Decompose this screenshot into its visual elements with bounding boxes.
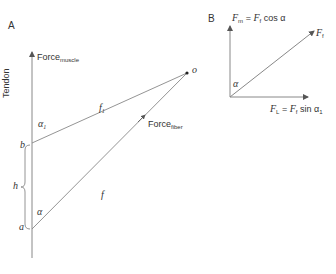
diagram-lines	[0, 0, 336, 274]
fm-rhs-sub: f	[260, 18, 262, 24]
force-fiber-sub: fiber	[171, 124, 183, 130]
alpha1-label: α1	[38, 119, 46, 130]
fm-equation: Fm = Ff cos α	[232, 13, 285, 24]
fl-fn-sub: 1	[319, 109, 322, 115]
alpha-label: α	[37, 207, 42, 217]
panel-b-label: B	[208, 14, 215, 24]
f-label: f	[101, 190, 104, 200]
ft-label: Ff	[316, 28, 324, 39]
force-fiber-arrow	[138, 115, 145, 122]
fl-fn: sin α	[300, 104, 319, 114]
panel-a-label: A	[8, 21, 15, 31]
fm-fn: cos α	[264, 13, 286, 23]
force-muscle-label: Forcemuscle	[37, 53, 79, 63]
fm-lhs-sub: m	[238, 18, 243, 24]
force-fiber-label: Forcefiber	[148, 120, 183, 130]
force-muscle-sub: muscle	[60, 57, 79, 63]
fl-lhs-sub: L	[276, 109, 279, 115]
point-o-label: o	[192, 65, 197, 75]
ft-arrow	[230, 31, 314, 97]
point-b-label: b	[20, 140, 25, 150]
fiber-f-line	[32, 73, 187, 229]
h-brace	[21, 145, 30, 229]
panel-b-alpha: α	[233, 79, 238, 89]
fl-eq: =	[282, 104, 287, 114]
force-fiber-main: Force	[148, 119, 171, 129]
point-a-label: a	[19, 222, 24, 232]
f1-sub: 1	[102, 108, 105, 114]
fiber-f1-line	[32, 73, 187, 143]
alpha1-sub: 1	[43, 124, 46, 130]
h-label: h	[13, 181, 18, 191]
fl-equation: FL = Ff sin α1	[270, 104, 323, 115]
tendon-label: Tendon	[2, 68, 11, 98]
fm-eq: =	[246, 13, 251, 23]
origin-dot	[185, 71, 188, 74]
fl-rhs-sub: f	[296, 109, 298, 115]
ft-sub: f	[322, 33, 324, 39]
f1-label: f1	[99, 103, 105, 114]
force-muscle-main: Force	[37, 52, 60, 62]
